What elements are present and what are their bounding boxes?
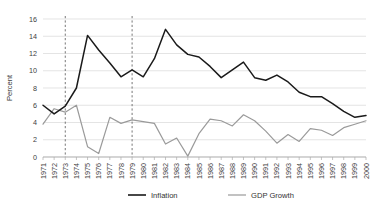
x-tick-1972: 1972	[50, 163, 59, 179]
x-tick-1984: 1984	[183, 163, 192, 179]
x-tick-1980: 1980	[139, 163, 148, 179]
x-tick-1982: 1982	[161, 163, 170, 179]
x-tick-1975: 1975	[83, 163, 92, 179]
x-tick-1995: 1995	[306, 163, 315, 179]
x-tick-1976: 1976	[94, 163, 103, 179]
x-tick-1999: 1999	[350, 163, 359, 179]
x-tick-1985: 1985	[195, 163, 204, 179]
x-tick-1992: 1992	[272, 163, 281, 179]
line-chart: 0246810121416 Percent 197119721973197419…	[0, 0, 374, 210]
x-tick-1981: 1981	[150, 163, 159, 179]
x-tick-1988: 1988	[228, 163, 237, 179]
x-tick-1986: 1986	[206, 163, 215, 179]
y-tick-6: 6	[33, 101, 37, 110]
x-tick-2000: 2000	[362, 163, 371, 179]
x-tick-1993: 1993	[284, 163, 293, 179]
x-tick-1974: 1974	[72, 163, 81, 179]
legend-label-inflation: Inflation	[151, 191, 178, 200]
y-tick-10: 10	[29, 66, 37, 75]
y-tick-2: 2	[33, 135, 37, 144]
chart-figure: 0246810121416 Percent 197119721973197419…	[0, 0, 374, 210]
y-tick-12: 12	[29, 49, 37, 58]
x-tick-1996: 1996	[317, 163, 326, 179]
x-tick-1979: 1979	[128, 163, 137, 179]
y-tick-0: 0	[33, 153, 37, 162]
legend-label-gdp-growth: GDP Growth	[251, 191, 294, 200]
x-tick-1998: 1998	[339, 163, 348, 179]
x-tick-1997: 1997	[328, 163, 337, 179]
x-tick-1991: 1991	[261, 163, 270, 179]
y-tick-14: 14	[29, 32, 37, 41]
x-tick-1989: 1989	[239, 163, 248, 179]
x-tick-1971: 1971	[39, 163, 48, 179]
x-tick-1994: 1994	[295, 163, 304, 179]
y-tick-8: 8	[33, 84, 37, 93]
x-tick-1977: 1977	[105, 163, 114, 179]
x-tick-1987: 1987	[217, 163, 226, 179]
y-tick-16: 16	[29, 15, 37, 24]
x-tick-1973: 1973	[61, 163, 70, 179]
x-tick-1978: 1978	[117, 163, 126, 179]
y-axis-title: Percent	[5, 74, 14, 101]
x-tick-1990: 1990	[250, 163, 259, 179]
y-tick-4: 4	[33, 118, 37, 127]
x-tick-1983: 1983	[172, 163, 181, 179]
